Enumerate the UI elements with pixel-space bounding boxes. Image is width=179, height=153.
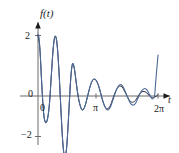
x-tick-label-2pi: 2π [154,104,164,114]
figure-chart-damped-oscillation: f(t) t 2 0 −2 0 π 2π [0,0,179,153]
y-tick-label-negative-2: −2 [21,130,32,140]
series-group [38,34,158,153]
y-axis-arrowhead [35,22,41,29]
y-tick-label-2: 2 [25,31,30,41]
axes-group [20,22,170,145]
x-tick-label-0: 0 [40,103,45,113]
y-tick-label-0: 0 [28,89,33,99]
series-line-partial-sum [38,34,158,153]
x-axis-label: t [168,95,171,105]
x-tick-label-pi: π [93,103,98,113]
y-axis-label: f(t) [40,8,53,19]
